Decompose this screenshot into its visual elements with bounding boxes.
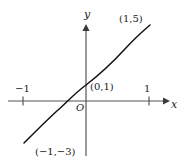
x-tick-label-positive-one: 1 xyxy=(144,84,150,94)
point-label-bottom-left: (−1,−3) xyxy=(35,147,75,157)
graph-figure: y x −1 1 O (1,5) (0,1) (−1,−3) xyxy=(0,0,181,168)
y-axis-arrowhead xyxy=(82,24,89,31)
point-label-y-intercept: (0,1) xyxy=(90,82,114,92)
x-tick-label-negative-one: −1 xyxy=(15,84,30,94)
function-curve xyxy=(24,25,150,143)
point-label-top-right: (1,5) xyxy=(119,14,143,24)
x-axis-arrowhead xyxy=(163,97,170,104)
x-axis-label: x xyxy=(171,99,177,110)
y-axis-label: y xyxy=(84,9,90,20)
origin-label: O xyxy=(76,103,84,113)
